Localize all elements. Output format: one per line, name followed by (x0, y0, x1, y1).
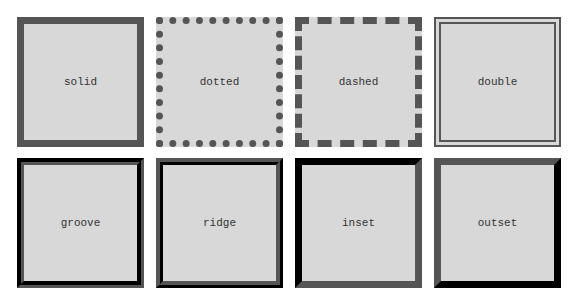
box-dotted: dotted (156, 17, 283, 147)
box-solid: solid (17, 17, 144, 147)
box-label: inset (342, 217, 375, 229)
box-ridge: ridge (156, 158, 283, 288)
box-dashed: dashed (295, 17, 422, 147)
box-label: solid (64, 76, 97, 88)
box-label: outset (478, 217, 518, 229)
box-label: ridge (203, 217, 236, 229)
box-inset: inset (295, 158, 422, 288)
box-outset: outset (434, 158, 561, 288)
border-style-grid: solid dotted dashed double groove ridge … (17, 17, 561, 288)
box-double: double (434, 17, 561, 147)
box-label: dashed (339, 76, 379, 88)
box-label: dotted (200, 76, 240, 88)
box-label: groove (61, 217, 101, 229)
box-label: double (478, 76, 518, 88)
box-groove: groove (17, 158, 144, 288)
